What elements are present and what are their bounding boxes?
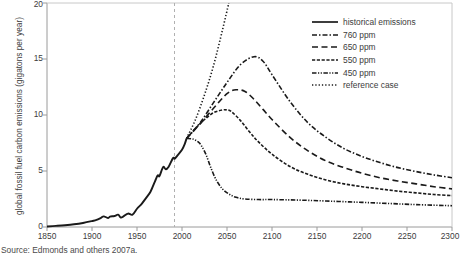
legend-item-reference-case: reference case [312, 79, 452, 92]
x-tick-label: 1850 [27, 232, 67, 241]
x-tick-label: 1950 [117, 232, 157, 241]
legend-label: historical emissions [343, 17, 416, 27]
legend-label: 450 ppm [343, 68, 376, 78]
legend-line-swatch-shortdash [312, 55, 338, 65]
legend-item-650-ppm: 650 ppm [312, 41, 452, 54]
legend-item-historical-emissions: historical emissions [312, 16, 452, 29]
legend-line-swatch-solid [312, 17, 338, 27]
x-tick-label: 2000 [162, 232, 202, 241]
x-tick-label: 2150 [297, 232, 337, 241]
legend-item-450-ppm: 450 ppm [312, 66, 452, 79]
legend-line-swatch-longdash [312, 42, 338, 52]
chart-legend: historical emissions 760 ppm 650 ppm 550… [312, 16, 452, 92]
x-tick-label: 1900 [72, 232, 112, 241]
x-tick-label: 2250 [387, 232, 427, 241]
legend-label: 550 ppm [343, 55, 376, 65]
legend-label: 650 ppm [343, 42, 376, 52]
x-tick-label: 2300 [430, 232, 464, 241]
x-tick-label: 2200 [342, 232, 382, 241]
x-tick-label: 2100 [252, 232, 292, 241]
x-tick-label: 2050 [207, 232, 247, 241]
legend-label: 760 ppm [343, 30, 376, 40]
legend-line-swatch-dotted [312, 80, 338, 90]
legend-item-550-ppm: 550 ppm [312, 54, 452, 67]
legend-line-swatch-dashdot [312, 30, 338, 40]
legend-item-760-ppm: 760 ppm [312, 29, 452, 42]
legend-label: reference case [343, 80, 398, 90]
legend-line-swatch-dashdotdot [312, 68, 338, 78]
source-caption: Source: Edmonds and others 2007a. [1, 245, 137, 255]
